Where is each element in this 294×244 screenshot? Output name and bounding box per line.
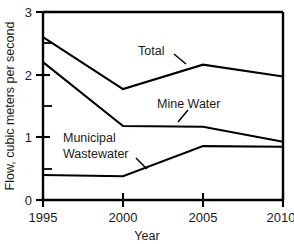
x-tick-label-1995: 1995 (29, 210, 58, 225)
x-tick-label-2000: 2000 (109, 210, 138, 225)
y-tick-label-2: 2 (25, 68, 32, 83)
x-tick-label-2010: 2010 (267, 210, 294, 225)
x-tick-label-2005: 2005 (189, 210, 218, 225)
chart-figure: 3 2 1 0 1995 2000 2005 2010 Year Flow, c… (0, 0, 294, 244)
leader-total (174, 54, 186, 64)
line-chart-svg: 3 2 1 0 1995 2000 2005 2010 Year Flow, c… (0, 0, 294, 244)
y-axis-title: Flow, cubic meters per second (3, 22, 17, 191)
leader-municipal-wastewater (136, 158, 147, 169)
y-tick-label-3: 3 (25, 5, 32, 20)
series-annotation-municipal-line1: Municipal (63, 131, 116, 145)
x-axis-title: Year (134, 229, 159, 243)
series-annotation-municipal-line2: Wastewater (63, 147, 129, 161)
y-tick-label-0: 0 (25, 193, 32, 208)
y-tick-label-1: 1 (25, 130, 32, 145)
leader-mine-water (178, 110, 188, 122)
series-annotation-mine-water: Mine Water (157, 97, 220, 111)
series-annotation-total: Total (138, 44, 164, 58)
